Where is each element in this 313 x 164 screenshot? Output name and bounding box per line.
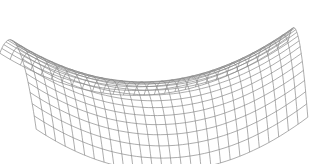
saddle-surface-figure: [0, 0, 313, 164]
mesh-line-v: [6, 30, 292, 84]
mesh-line-u: [10, 46, 46, 136]
mesh-line-u: [31, 57, 66, 147]
mesh-line-u: [268, 41, 289, 131]
mesh-line-v: [12, 28, 295, 82]
wireframe-saddle-surface: [0, 0, 313, 164]
